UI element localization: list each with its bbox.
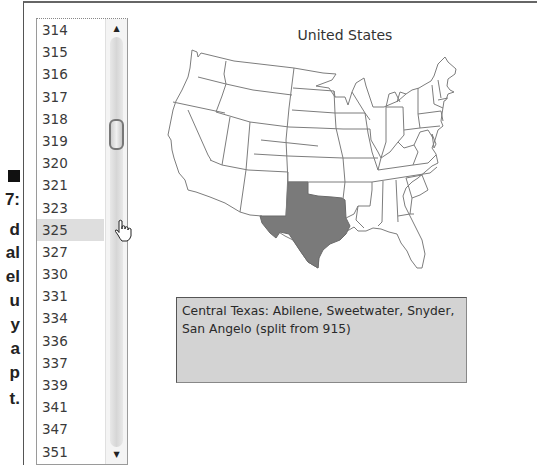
list-item[interactable]: 330 xyxy=(37,263,104,285)
area-code-list: 314 315 316 317 318 319 320 321 323 325 … xyxy=(37,19,104,463)
list-item[interactable]: 319 xyxy=(37,130,104,152)
list-item[interactable]: 336 xyxy=(37,330,104,352)
list-item[interactable]: 331 xyxy=(37,285,104,307)
caption-fragment: 7: xyxy=(0,191,20,208)
list-item[interactable]: 327 xyxy=(37,241,104,263)
list-item[interactable]: 334 xyxy=(37,307,104,329)
list-item-selected[interactable]: 325 xyxy=(37,219,104,241)
caption-fragment: u xyxy=(0,292,20,309)
map-title: United States xyxy=(240,27,450,43)
list-item[interactable]: 351 xyxy=(37,441,104,463)
list-item[interactable]: 317 xyxy=(37,86,104,108)
list-item[interactable]: 339 xyxy=(37,374,104,396)
list-item[interactable]: 323 xyxy=(37,197,104,219)
list-item[interactable]: 320 xyxy=(37,152,104,174)
list-item[interactable]: 321 xyxy=(37,174,104,196)
caption-fragment: y xyxy=(0,316,20,333)
area-code-description: Central Texas: Abilene, Sweetwater, Snyd… xyxy=(176,297,467,383)
list-item[interactable]: 337 xyxy=(37,352,104,374)
list-item[interactable]: 341 xyxy=(37,396,104,418)
us-map[interactable] xyxy=(160,44,510,279)
caption-bullet xyxy=(8,170,20,182)
caption-fragment: d xyxy=(0,221,20,238)
list-item[interactable]: 315 xyxy=(37,41,104,63)
list-item[interactable]: 314 xyxy=(37,19,104,41)
caption-fragment: p xyxy=(0,364,20,381)
caption-fragment: al xyxy=(0,244,20,261)
scroll-thumb[interactable] xyxy=(109,119,124,150)
list-item[interactable]: 347 xyxy=(37,418,104,440)
hand-pointer-cursor-icon xyxy=(113,219,135,243)
caption-fragment: el xyxy=(0,268,20,285)
list-item[interactable]: 318 xyxy=(37,108,104,130)
caption-fragment: t. xyxy=(0,390,20,407)
scroll-down-arrow-icon[interactable]: ▼ xyxy=(106,447,127,463)
scroll-up-arrow-icon[interactable]: ▲ xyxy=(106,21,127,37)
list-item[interactable]: 316 xyxy=(37,63,104,85)
caption-fragment: a xyxy=(0,340,20,357)
